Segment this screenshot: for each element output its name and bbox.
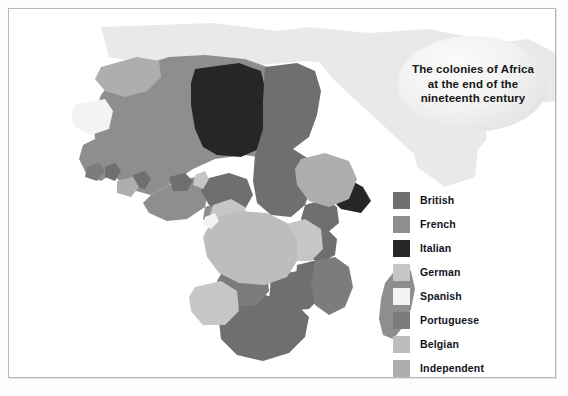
legend-label-portuguese: Portuguese (420, 314, 479, 326)
legend-swatch-german (393, 264, 410, 281)
legend-item-belgian[interactable]: Belgian (393, 332, 533, 356)
legend-item-independent[interactable]: Independent (393, 356, 533, 380)
legend-label-german: German (420, 266, 461, 278)
legend-label-independent: Independent (420, 362, 484, 374)
legend-item-spanish[interactable]: Spanish (393, 284, 533, 308)
legend-item-italian[interactable]: Italian (393, 236, 533, 260)
map-legend: British French Italian German Spanish Po… (393, 188, 533, 380)
legend-swatch-british (393, 192, 410, 209)
map-title: The colonies of Africa at the end of the… (407, 62, 539, 106)
legend-item-british[interactable]: British (393, 188, 533, 212)
legend-swatch-spanish (393, 288, 410, 305)
legend-swatch-portuguese (393, 312, 410, 329)
legend-label-belgian: Belgian (420, 338, 459, 350)
legend-label-british: British (420, 194, 454, 206)
legend-swatch-independent (393, 360, 410, 377)
legend-item-french[interactable]: French (393, 212, 533, 236)
legend-swatch-italian (393, 240, 410, 257)
legend-label-italian: Italian (420, 242, 451, 254)
title-bubble: The colonies of Africa at the end of the… (398, 36, 548, 132)
legend-item-portuguese[interactable]: Portuguese (393, 308, 533, 332)
legend-label-spanish: Spanish (420, 290, 462, 302)
legend-item-german[interactable]: German (393, 260, 533, 284)
legend-swatch-french (393, 216, 410, 233)
legend-label-french: French (420, 218, 456, 230)
legend-swatch-belgian (393, 336, 410, 353)
map-figure: The colonies of Africa at the end of the… (0, 0, 568, 396)
